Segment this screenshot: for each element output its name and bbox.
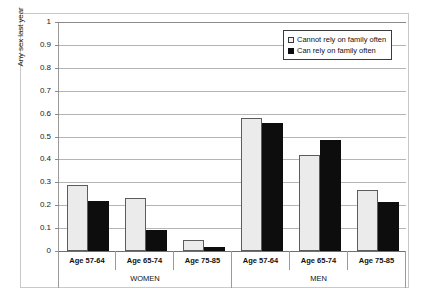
bar-can-rely-5 — [378, 202, 399, 251]
y-axis-tick — [55, 228, 59, 229]
legend-entry-cannot-rely: Cannot rely on family often — [288, 34, 386, 45]
category-label-1: Age 65-74 — [116, 251, 174, 270]
y-axis-tick — [55, 45, 59, 46]
legend-swatch-light-icon — [288, 37, 294, 43]
gridline — [59, 91, 406, 92]
y-axis-tick-label: 0.7 — [11, 86, 51, 95]
group-label-men: MEN — [232, 270, 406, 288]
legend-entry-can-rely: Can rely on family often — [288, 45, 386, 56]
gridline — [59, 228, 406, 229]
bar-can-rely-4 — [320, 140, 341, 251]
gridline — [59, 68, 406, 69]
category-axis: Age 57-64Age 65-74Age 75-85Age 57-64Age … — [58, 251, 406, 288]
y-axis-tick-label: 0.2 — [11, 200, 51, 209]
y-axis-tick — [55, 22, 59, 23]
y-axis-tick — [55, 68, 59, 69]
y-axis-tick-label: 0.9 — [11, 40, 51, 49]
y-axis-tick — [55, 91, 59, 92]
category-label-0: Age 57-64 — [58, 251, 116, 270]
y-axis-tick-label: 0 — [11, 246, 51, 255]
gridline — [59, 22, 406, 23]
gridline — [59, 182, 406, 183]
bar-cannot-rely-4 — [299, 155, 320, 251]
bar-can-rely-1 — [146, 230, 167, 251]
bar-chart-figure: Any sex last year 00.10.20.30.40.50.60.7… — [0, 0, 423, 307]
category-label-5: Age 75-85 — [348, 251, 406, 270]
chart-legend: Cannot rely on family often Can rely on … — [283, 30, 392, 60]
category-label-4: Age 65-74 — [290, 251, 348, 270]
gridline — [59, 114, 406, 115]
y-axis-tick — [55, 114, 59, 115]
group-label-women: WOMEN — [58, 270, 232, 288]
gridline — [59, 205, 406, 206]
y-axis-tick — [55, 205, 59, 206]
bar-can-rely-3 — [262, 123, 283, 251]
bar-cannot-rely-0 — [67, 185, 88, 251]
bar-cannot-rely-5 — [357, 190, 378, 251]
bar-cannot-rely-2 — [183, 240, 204, 251]
category-label-2: Age 75-85 — [174, 251, 232, 270]
y-axis-tick-label: 0.4 — [11, 154, 51, 163]
y-axis-tick — [55, 137, 59, 138]
legend-label-cannot-rely: Cannot rely on family often — [297, 35, 386, 44]
y-axis-tick-label: 0.3 — [11, 177, 51, 186]
y-axis-tick-label: 0.6 — [11, 109, 51, 118]
legend-swatch-dark-icon — [288, 48, 294, 54]
gridline — [59, 159, 406, 160]
y-axis-tick-label: 0.1 — [11, 223, 51, 232]
legend-label-can-rely: Can rely on family often — [297, 46, 376, 55]
bar-cannot-rely-3 — [241, 118, 262, 251]
category-label-3: Age 57-64 — [232, 251, 290, 270]
y-axis-tick-label: 0.8 — [11, 63, 51, 72]
bar-can-rely-0 — [88, 201, 109, 251]
gridline — [59, 137, 406, 138]
y-axis-tick — [55, 182, 59, 183]
bar-cannot-rely-1 — [125, 198, 146, 251]
y-axis-tick-label: 0.5 — [11, 132, 51, 141]
y-axis-tick-label: 1 — [11, 17, 51, 26]
y-axis-tick — [55, 159, 59, 160]
